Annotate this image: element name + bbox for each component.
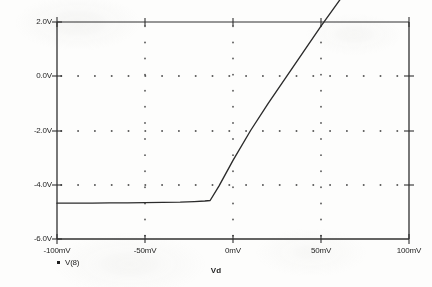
chart-plot-area bbox=[0, 0, 432, 287]
plot-frame bbox=[57, 22, 409, 239]
x-tick-label-0mV: 0mV bbox=[203, 246, 263, 255]
x-tick-label-100mV: 100mV bbox=[379, 246, 432, 255]
x-tick-label--50mV: -50mV bbox=[115, 246, 175, 255]
legend-square-marker-icon bbox=[57, 261, 60, 264]
x-tick-label-50mV: 50mV bbox=[291, 246, 351, 255]
grid-horizontal bbox=[61, 76, 407, 185]
grid-vertical bbox=[145, 26, 321, 236]
y-tick-label--4.0V: -4.0V bbox=[14, 180, 52, 189]
y-tick-label-2.0V: 2.0V bbox=[14, 17, 52, 26]
x-axis-ticks bbox=[57, 17, 409, 244]
data-series-v8 bbox=[57, 0, 409, 203]
x-tick-label--100mV: -100mV bbox=[27, 246, 87, 255]
y-tick-label--2.0V: -2.0V bbox=[14, 126, 52, 135]
x-axis-title: Vd bbox=[0, 266, 432, 275]
y-axis-ticks bbox=[52, 22, 414, 239]
y-tick-label-0.0V: 0.0V bbox=[14, 71, 52, 80]
y-tick-label--6.0V: -6.0V bbox=[14, 234, 52, 243]
chart-page: 2.0V 0.0V -2.0V -4.0V -6.0V -100mV -50mV… bbox=[0, 0, 432, 287]
